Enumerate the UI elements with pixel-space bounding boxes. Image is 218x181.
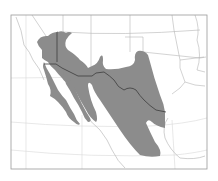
range-map bbox=[0, 0, 218, 181]
